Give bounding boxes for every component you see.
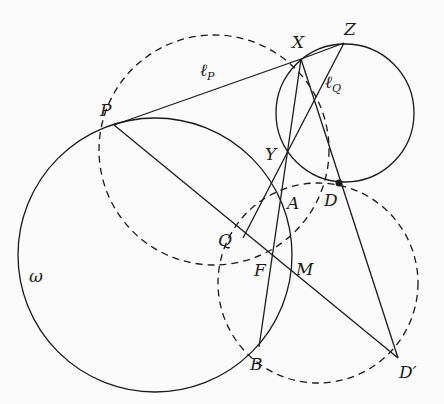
line-lP	[114, 59, 301, 125]
label-lQ-main: ℓ	[325, 72, 332, 92]
line-XDprime	[301, 59, 398, 358]
label-Q: Q	[218, 230, 232, 250]
label-Dprime: D′	[398, 362, 417, 382]
label-B: B	[249, 354, 263, 374]
label-P: P	[99, 100, 112, 120]
point-D-dot	[336, 180, 343, 187]
diagram-svg: P X Z Y D A Q F M B D′ ω ℓP ℓQ	[0, 0, 444, 404]
label-Z: Z	[343, 19, 357, 39]
label-lQ-sub: Q	[332, 82, 341, 95]
geometry-diagram: P X Z Y D A Q F M B D′ ω ℓP ℓQ	[0, 0, 444, 404]
line-PDprime	[114, 125, 398, 358]
label-D: D	[323, 190, 338, 210]
label-lP-main: ℓ	[200, 60, 207, 80]
label-lQ: ℓQ	[325, 72, 341, 95]
label-lP-sub: P	[206, 70, 215, 83]
label-X: X	[290, 32, 305, 52]
dashed-circle-lower	[218, 183, 418, 383]
label-Y: Y	[265, 144, 278, 164]
circle-xzyd	[276, 44, 414, 182]
label-A: A	[285, 193, 299, 213]
label-lP: ℓP	[200, 60, 215, 83]
label-F: F	[253, 260, 267, 280]
label-M: M	[295, 259, 314, 279]
label-omega: ω	[29, 266, 43, 286]
